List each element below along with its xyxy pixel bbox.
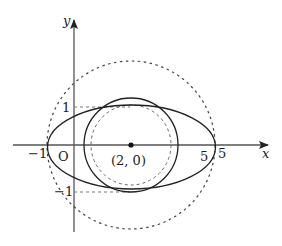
- tick-label-x-5-inner: 5: [200, 149, 208, 164]
- diagram-canvas: y x O −1 5 5 1 −1 (2, 0): [0, 0, 282, 246]
- center-point: [128, 142, 133, 147]
- tick-label-x-neg1: −1: [28, 146, 47, 161]
- diagram-svg: y x O −1 5 5 1 −1 (2, 0): [0, 0, 282, 246]
- tick-label-y-neg1: −1: [54, 184, 73, 199]
- y-axis-label: y: [62, 13, 71, 28]
- x-axis-label: x: [262, 146, 270, 161]
- origin-label: O: [58, 149, 69, 164]
- tick-label-x-5-outer: 5: [218, 146, 226, 161]
- tick-label-y-1: 1: [62, 100, 70, 115]
- center-label: (2, 0): [111, 153, 146, 168]
